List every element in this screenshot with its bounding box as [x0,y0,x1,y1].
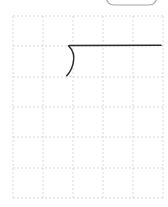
drawing-canvas[interactable] [0,0,168,207]
clipped-button-outline[interactable] [107,0,157,5]
drawing-pad-screen [0,0,168,207]
ink-strokes [67,45,161,76]
grid-lines [13,16,163,198]
